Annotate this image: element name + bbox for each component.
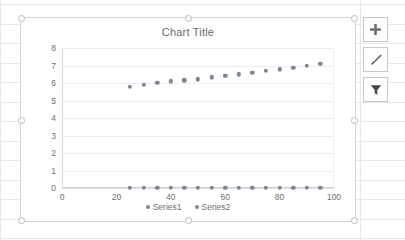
resize-handle-middle-right[interactable] bbox=[351, 117, 358, 124]
chart-quick-buttons bbox=[363, 17, 388, 102]
data-point-marker[interactable] bbox=[209, 186, 213, 190]
y-gridline bbox=[62, 83, 334, 84]
y-axis-tick-label: 3 bbox=[51, 131, 56, 141]
plus-icon bbox=[369, 23, 382, 36]
data-point-marker[interactable] bbox=[141, 186, 145, 190]
data-point-marker[interactable] bbox=[277, 186, 281, 190]
y-gridline bbox=[62, 118, 334, 119]
y-gridline bbox=[62, 48, 334, 49]
data-point-marker[interactable] bbox=[196, 186, 200, 190]
funnel-icon bbox=[369, 83, 383, 97]
data-point-marker[interactable] bbox=[318, 186, 322, 190]
x-axis-tick-label: 60 bbox=[220, 192, 229, 202]
resize-handle-top-left[interactable] bbox=[18, 15, 25, 22]
data-point-marker[interactable] bbox=[169, 186, 173, 190]
resize-handle-middle-left[interactable] bbox=[18, 117, 25, 124]
y-axis-tick-label: 4 bbox=[51, 113, 56, 123]
data-point-marker[interactable] bbox=[237, 186, 241, 190]
data-point-marker[interactable] bbox=[128, 186, 132, 190]
data-point-marker[interactable] bbox=[291, 186, 295, 190]
worksheet-column-gridline bbox=[360, 0, 361, 240]
y-gridline bbox=[62, 171, 334, 172]
chart-elements-button[interactable] bbox=[363, 17, 388, 42]
y-axis-tick-label: 8 bbox=[51, 43, 56, 53]
y-gridline bbox=[62, 101, 334, 102]
y-axis-tick-label: 1 bbox=[51, 166, 56, 176]
legend-item[interactable]: Series1 bbox=[146, 202, 182, 212]
worksheet-column-gridline bbox=[0, 0, 1, 240]
data-point-marker[interactable] bbox=[264, 186, 268, 190]
brush-icon bbox=[369, 53, 383, 67]
y-gridline bbox=[62, 136, 334, 137]
chart-legend[interactable]: Series1Series2 bbox=[21, 202, 355, 212]
data-point-marker[interactable] bbox=[250, 186, 254, 190]
chart-title[interactable]: Chart Title bbox=[21, 26, 355, 38]
resize-handle-top-right[interactable] bbox=[351, 15, 358, 22]
legend-label: Series1 bbox=[153, 202, 182, 212]
chart-object[interactable]: Chart Title 012345678020406080100 Series… bbox=[20, 17, 356, 222]
data-point-marker[interactable] bbox=[182, 186, 186, 190]
data-point-marker[interactable] bbox=[223, 186, 227, 190]
x-axis-tick-label: 0 bbox=[60, 192, 65, 202]
worksheet-row-gridline bbox=[0, 4, 405, 5]
y-gridline bbox=[62, 153, 334, 154]
y-axis-tick-label: 0 bbox=[51, 183, 56, 193]
y-axis-tick-label: 7 bbox=[51, 61, 56, 71]
resize-handle-bottom-right[interactable] bbox=[351, 217, 358, 224]
plot-area[interactable]: 012345678020406080100 bbox=[62, 48, 334, 188]
y-axis-tick-label: 5 bbox=[51, 96, 56, 106]
legend-item[interactable]: Series2 bbox=[195, 202, 231, 212]
y-axis-tick-label: 6 bbox=[51, 78, 56, 88]
resize-handle-bottom-middle[interactable] bbox=[185, 217, 192, 224]
worksheet-row-gridline bbox=[0, 238, 405, 239]
y-axis-tick-label: 2 bbox=[51, 148, 56, 158]
data-point-marker[interactable] bbox=[305, 186, 309, 190]
x-axis-tick-label: 20 bbox=[112, 192, 121, 202]
x-axis-tick-label: 100 bbox=[327, 192, 341, 202]
x-axis-tick-label: 80 bbox=[275, 192, 284, 202]
chart-filters-button[interactable] bbox=[363, 77, 388, 102]
chart-styles-button[interactable] bbox=[363, 47, 388, 72]
resize-handle-bottom-left[interactable] bbox=[18, 217, 25, 224]
data-point-marker[interactable] bbox=[155, 186, 159, 190]
legend-marker-icon bbox=[195, 205, 199, 209]
legend-label: Series2 bbox=[202, 202, 231, 212]
resize-handle-top-middle[interactable] bbox=[185, 15, 192, 22]
x-axis-tick-label: 40 bbox=[166, 192, 175, 202]
legend-marker-icon bbox=[146, 205, 150, 209]
